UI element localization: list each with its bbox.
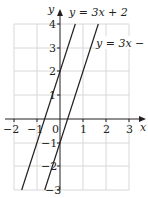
y-tick-label: −2 <box>41 160 57 173</box>
y-tick-label: −3 <box>45 184 61 197</box>
x-tick-label: −2 <box>3 123 19 136</box>
x-tick-label: 2 <box>103 123 110 136</box>
x-tick-label: 1 <box>80 123 87 136</box>
y-tick-label: 4 <box>49 18 56 31</box>
x-tick-label: 3 <box>126 123 133 136</box>
y-tick-label: 1 <box>49 89 56 102</box>
y-axis-arrow-icon <box>57 9 63 16</box>
y-tick-label: 3 <box>49 42 56 55</box>
x-tick-label: 0 <box>52 123 59 136</box>
x-tick-label: −1 <box>27 123 43 136</box>
line1-label: y = 3x + 2 <box>68 6 128 19</box>
line2-label: y = 3x − 1 <box>95 37 148 50</box>
coordinate-plot: y x −2 −1 0 1 2 3 4 3 2 1 −1 −2 −3 y = 3… <box>0 0 148 198</box>
y-tick-label: 2 <box>49 65 56 78</box>
y-tick-label: −1 <box>41 137 57 150</box>
x-axis-label: x <box>140 121 147 134</box>
y-axis-label: y <box>47 3 55 16</box>
